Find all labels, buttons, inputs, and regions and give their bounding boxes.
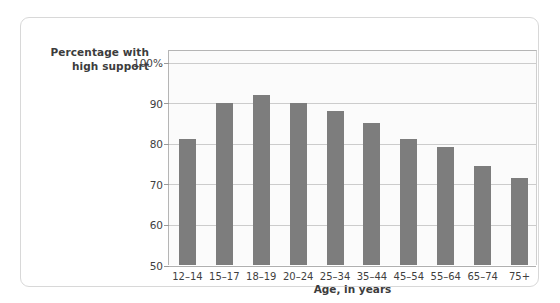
y-tick-label-60: 60 [150,219,163,231]
y-tick-label-100: 100% [133,57,163,69]
gridline-50 [169,266,536,267]
y-tick-mark-90 [164,103,169,104]
x-tick-label: 75+ [509,271,530,282]
plot-area: 5060708090100%12–1415–1718–1920–2425–343… [168,50,537,265]
x-tick-label: 45–54 [394,271,424,282]
figure-frame: Percentage with high support 50607080901… [20,17,539,287]
x-tick-label: 25–34 [320,271,350,282]
bar [363,123,380,265]
bar [474,166,491,265]
x-tick-label: 35–44 [357,271,387,282]
x-axis-title: Age, in years [168,283,537,295]
y-tick-label-70: 70 [150,179,163,191]
x-tick-label: 55–64 [431,271,461,282]
bar [437,147,454,265]
x-tick-label: 65–74 [467,271,497,282]
bar [253,95,270,265]
y-tick-mark-50 [164,266,169,267]
y-axis-title: Percentage with high support [31,46,149,73]
x-tick-label: 15–17 [209,271,239,282]
y-tick-mark-70 [164,184,169,185]
y-tick-mark-60 [164,225,169,226]
bar [327,111,344,265]
bar [216,103,233,265]
plot-inner: 5060708090100%12–1415–1718–1920–2425–343… [169,51,536,265]
gridline-100 [169,63,536,64]
y-tick-label-90: 90 [150,98,163,110]
bar [179,139,196,265]
bar [400,139,417,265]
y-tick-mark-100 [164,63,169,64]
y-tick-label-50: 50 [150,260,163,272]
x-tick-label: 20–24 [283,271,313,282]
bar [511,178,528,265]
y-axis-title-line-2: high support [31,60,149,74]
x-tick-label: 12–14 [172,271,202,282]
y-tick-label-80: 80 [150,138,163,150]
bar [290,103,307,265]
y-tick-mark-80 [164,144,169,145]
x-tick-label: 18–19 [246,271,276,282]
